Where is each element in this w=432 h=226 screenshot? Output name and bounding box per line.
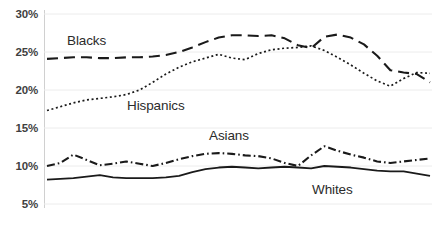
y-axis: 30% 25% 20% 15% 10% 5%: [0, 0, 44, 226]
series-label-asians: Asians: [209, 128, 249, 143]
chart-container: 30% 25% 20% 15% 10% 5% Blacks Hispanics …: [0, 0, 432, 226]
y-tick-label: 30%: [16, 8, 38, 20]
series-label-hispanics: Hispanics: [127, 98, 185, 113]
y-tick-label: 15%: [16, 122, 38, 134]
series-line-whites: [47, 166, 430, 180]
y-tick-label: 5%: [22, 198, 38, 210]
y-tick-label: 25%: [16, 46, 38, 58]
series-label-whites: Whites: [312, 182, 353, 197]
series-line-asians: [47, 146, 430, 166]
plot-area: Blacks Hispanics Asians Whites: [44, 0, 432, 226]
series-label-blacks: Blacks: [67, 33, 106, 48]
y-tick-label: 20%: [16, 84, 38, 96]
series-line-hispanics: [47, 46, 430, 111]
data-series: [47, 35, 430, 180]
y-tick-label: 10%: [16, 160, 38, 172]
